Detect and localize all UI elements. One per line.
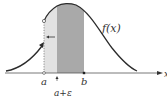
tick-b-marker xyxy=(83,72,85,74)
axis-label: x xyxy=(164,69,167,79)
curve-left xyxy=(6,46,42,71)
open-circle-marker xyxy=(42,19,45,22)
tick-a-marker xyxy=(43,72,46,75)
curve-label: f(x) xyxy=(101,22,121,35)
dark-shaded-region xyxy=(57,4,84,73)
tick-label-a: a xyxy=(41,76,47,87)
tick-label-b: b xyxy=(81,76,87,87)
axis-arrow-icon xyxy=(157,71,163,75)
density-diagram: f(x) x a a+ε b xyxy=(0,0,167,103)
tick-label-a-plus-eps: a+ε xyxy=(54,88,72,98)
